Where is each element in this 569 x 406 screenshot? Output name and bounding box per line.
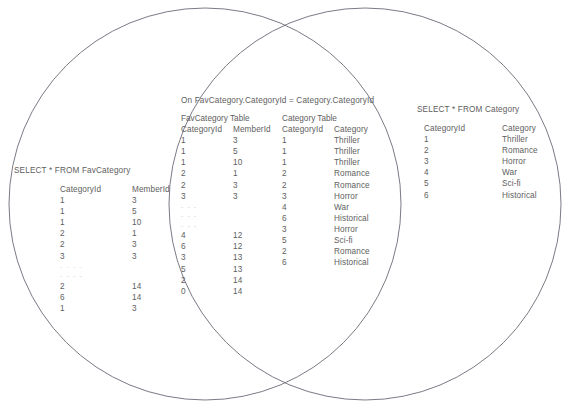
table-row: 4 12 (181, 230, 271, 241)
table-row: 6 Historical (424, 190, 538, 201)
cell-memberid: 14 (132, 281, 170, 292)
cell-memberid: 14 (233, 275, 271, 286)
table-row: 1 Thriller (282, 135, 370, 146)
cell-category: War (502, 167, 538, 178)
table-row: 2 3 (181, 180, 271, 191)
column-header-categoryid: CategoryId (60, 184, 132, 195)
table-header-row: CategoryId Category (282, 124, 370, 135)
cell-categoryid: 3 (181, 252, 233, 263)
cell-category: Thriller (334, 157, 370, 168)
join-condition-caption: On FavCategory.CategoryId = Category.Cat… (181, 96, 374, 105)
cell-memberid: 5 (233, 146, 271, 157)
column-header-categoryid: CategoryId (282, 124, 334, 135)
table-row: 3 3 (181, 191, 271, 202)
cell-categoryid: 2 (282, 168, 334, 179)
favcategory-table-title: FavCategory Table (181, 113, 282, 124)
cell-memberid: 3 (233, 180, 271, 191)
table-row: 6 Historical (282, 213, 370, 224)
table-row: 2 Romance (282, 168, 370, 179)
cell-categoryid: 2 (60, 228, 132, 239)
cell-memberid: 13 (233, 252, 271, 263)
cell-category: Horror (334, 191, 370, 202)
table-row: 2 Romance (282, 180, 370, 191)
cell-memberid: 3 (132, 239, 170, 250)
table-separator-row: - - - (181, 221, 271, 231)
table-row: 1 3 (60, 303, 170, 314)
table-row: 3 Horror (282, 224, 370, 235)
cell-categoryid: 0 (181, 286, 233, 297)
cell-category: Sci-fi (502, 178, 538, 189)
cell-category: Historical (334, 257, 370, 268)
table-row: 0 14 (181, 286, 271, 297)
cell-category: Romance (334, 246, 370, 257)
table-row: 4 War (282, 202, 370, 213)
cell-category: Thriller (334, 146, 370, 157)
column-header-categoryid: CategoryId (181, 124, 233, 135)
cell-categoryid: 1 (282, 157, 334, 168)
cell-categoryid: 3 (282, 224, 334, 235)
cell-categoryid: 6 (282, 213, 334, 224)
cell-categoryid: 6 (60, 292, 132, 303)
table-row: 5 Sci-fi (424, 178, 538, 189)
left-region-block: SELECT * FROM FavCategory CategoryId Mem… (13, 166, 170, 314)
cell-categoryid: 4 (181, 230, 233, 241)
cell-memberid: 3 (233, 191, 271, 202)
cell-memberid: 3 (132, 251, 170, 262)
cell-categoryid: 1 (60, 303, 132, 314)
cell-memberid: 14 (132, 292, 170, 303)
table-row: 1 Thriller (282, 146, 370, 157)
cell-categoryid: 1 (181, 157, 233, 168)
cell-memberid: 10 (132, 217, 170, 228)
cell-categoryid: 1 (282, 135, 334, 146)
table-row: 1 10 (181, 157, 271, 168)
cell-categoryid: 3 (424, 156, 502, 167)
separator-dashes: - - - (181, 221, 233, 231)
cell-categoryid: 2 (181, 275, 233, 286)
table-row: 4 War (424, 167, 538, 178)
cell-memberid: 3 (132, 195, 170, 206)
table-row: 5 13 (181, 264, 271, 275)
table-row: 2 1 (60, 228, 170, 239)
cell-categoryid: 1 (60, 195, 132, 206)
column-header-categoryid: CategoryId (424, 123, 502, 134)
cell-categoryid: 6 (424, 190, 502, 201)
table-row: 2 3 (60, 239, 170, 250)
table-header-row: CategoryId MemberId (181, 124, 271, 135)
table-row: 2 14 (181, 275, 271, 286)
cell-category: Horror (334, 224, 370, 235)
cell-memberid: 3 (233, 135, 271, 146)
table-row: 3 3 (60, 251, 170, 262)
cell-categoryid: 5 (282, 235, 334, 246)
table-row: 5 Sci-fi (282, 235, 370, 246)
cell-categoryid: 1 (282, 146, 334, 157)
table-row: 1 5 (60, 206, 170, 217)
table-row: 3 13 (181, 252, 271, 263)
separator-dots: - - - - (60, 271, 132, 281)
cell-categoryid: 1 (60, 206, 132, 217)
cell-category: Historical (334, 213, 370, 224)
cell-categoryid: 5 (181, 264, 233, 275)
cell-category: Thriller (502, 134, 538, 145)
category-table: CategoryId Category 1 Thriller 1 Thrille… (282, 124, 370, 268)
cell-categoryid: 1 (424, 134, 502, 145)
table-row: 1 Thriller (424, 134, 538, 145)
cell-categoryid: 2 (60, 281, 132, 292)
column-header-memberid: MemberId (132, 184, 170, 195)
cell-category: War (334, 202, 370, 213)
table-row: 6 Historical (282, 257, 370, 268)
cell-categoryid: 3 (181, 191, 233, 202)
table-header-row: CategoryId MemberId (60, 184, 170, 195)
cell-memberid: 1 (233, 168, 271, 179)
cell-category: Thriller (334, 135, 370, 146)
cell-categoryid: 2 (424, 145, 502, 156)
separator-dashes: - - - (181, 202, 233, 212)
right-region-caption: SELECT * FROM Category (417, 105, 538, 114)
table-row: 6 12 (181, 241, 271, 252)
left-region-table: CategoryId MemberId 1 3 1 5 1 10 2 1 2 3 (60, 184, 170, 314)
cell-categoryid: 2 (282, 180, 334, 191)
cell-category: Romance (502, 145, 538, 156)
separator-dots: - - - - (60, 262, 132, 272)
table-header-row: CategoryId Category (424, 123, 538, 134)
cell-categoryid: 1 (181, 135, 233, 146)
cell-memberid: 1 (132, 228, 170, 239)
